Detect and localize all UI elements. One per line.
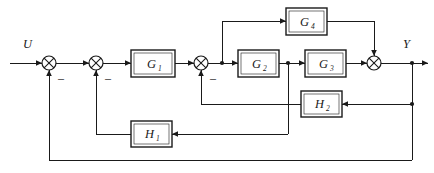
arrow-into-sum3 (188, 60, 194, 66)
arrow-into-h2 (342, 101, 348, 107)
block-g1[interactable]: G 1 (131, 50, 175, 77)
tap-dot-g4-branch (220, 61, 224, 65)
block-g3[interactable]: G 3 (305, 50, 346, 77)
block-h1-label: H (144, 127, 155, 141)
summing-junction-3[interactable]: – (194, 56, 217, 85)
block-diagram: G 1 G 2 G 3 G 4 H 2 (0, 0, 434, 173)
sum3-minus-sign: – (209, 71, 217, 85)
summing-junction-2[interactable]: – (89, 56, 112, 85)
arrow-into-sum1 (36, 60, 42, 66)
block-g4-label: G (300, 15, 309, 29)
block-h1[interactable]: H 1 (131, 121, 172, 147)
arrow-into-sum1-bottom (46, 70, 52, 76)
block-g3-label: G (319, 57, 328, 71)
block-h2-label: H (314, 97, 325, 111)
block-g4-subscript: 4 (311, 22, 315, 31)
block-g1-subscript: 1 (158, 64, 162, 73)
block-g3-subscript: 3 (329, 64, 334, 73)
block-h2-subscript: 2 (326, 104, 330, 113)
block-h2[interactable]: H 2 (301, 91, 342, 117)
arrow-into-sum4-top (371, 50, 377, 56)
block-g1-label: G (147, 57, 156, 71)
arrow-into-h1 (172, 131, 178, 137)
output-label-y: Y (403, 37, 412, 51)
block-g2-label: G (252, 57, 261, 71)
outer-feedback-wires (49, 70, 412, 160)
block-diagram-canvas: G 1 G 2 G 3 G 4 H 2 (0, 0, 434, 173)
tap-dot-outer-loop (410, 102, 414, 106)
arrow-into-sum4-left (361, 60, 367, 66)
arrow-into-g1 (125, 60, 131, 66)
summing-junction-4[interactable] (367, 56, 381, 70)
block-g2[interactable]: G 2 (238, 50, 279, 77)
arrow-output (422, 60, 428, 66)
arrow-into-sum2-bottom (93, 70, 99, 76)
arrow-into-sum3-bottom (198, 70, 204, 76)
arrowheads (36, 18, 428, 137)
sum1-minus-sign: – (57, 71, 65, 85)
arrow-into-g4 (280, 18, 286, 24)
arrow-into-g3 (299, 60, 305, 66)
arrow-into-g2 (232, 60, 238, 66)
tap-dot-output (410, 61, 414, 65)
block-g4[interactable]: G 4 (286, 8, 327, 35)
block-h1-subscript: 1 (156, 134, 160, 143)
input-label-u: U (23, 37, 33, 51)
tap-dot-h1-branch (286, 61, 290, 65)
block-g2-subscript: 2 (263, 64, 267, 73)
sum2-minus-sign: – (104, 71, 112, 85)
arrow-into-sum2 (83, 60, 89, 66)
summing-junction-1[interactable]: – (42, 56, 65, 85)
